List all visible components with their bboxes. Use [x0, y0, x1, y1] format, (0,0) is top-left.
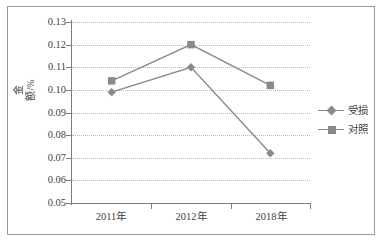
legend-item-duizhao[interactable]: 对照: [318, 120, 378, 139]
legend-label: 受损: [348, 105, 368, 117]
data-point: [107, 88, 115, 96]
legend-item-shousun[interactable]: 受损: [318, 101, 378, 120]
diamond-marker-icon: [318, 104, 344, 118]
data-point: [108, 77, 116, 85]
data-point: [267, 82, 275, 90]
legend-label: 对照: [348, 124, 368, 136]
square-marker-icon: [318, 123, 344, 137]
chart-figure: 金额/% 0.13 0.12 0.11 0.10 0.09 0.08 0.07 …: [0, 0, 384, 243]
data-point: [187, 41, 195, 49]
series-shoussun: [107, 63, 274, 157]
series-line-shousun: [112, 67, 271, 153]
chart-legend: 受损 对照: [318, 101, 378, 139]
series-markers-shousun: [107, 63, 274, 157]
